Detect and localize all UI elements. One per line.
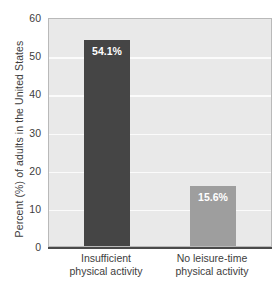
plot-area: 54.1%15.6%: [48, 18, 272, 247]
y-axis-tick-labels: 6050403020100: [0, 0, 46, 289]
bar-1: 15.6%: [190, 186, 236, 246]
y-tick-label-50: 50: [29, 51, 41, 61]
x-category-label-line: physical activity: [46, 265, 166, 278]
y-tick-label-10: 10: [29, 204, 41, 214]
x-category-label-1: No leisure-timephysical activity: [152, 252, 272, 277]
bar-chart: Percent (%) of adults in the United Stat…: [0, 0, 280, 289]
x-axis-category-labels: Insufficientphysical activityNo leisure-…: [48, 252, 272, 286]
x-axis-line: [48, 247, 272, 249]
x-category-label-line: Insufficient: [46, 252, 166, 265]
gridline-20: [49, 172, 271, 174]
gridline-30: [49, 134, 271, 136]
gridline-50: [49, 57, 271, 59]
y-tick-label-0: 0: [35, 242, 41, 252]
y-tick-label-40: 40: [29, 89, 41, 99]
bar-0: 54.1%: [84, 40, 130, 246]
x-category-label-0: Insufficientphysical activity: [46, 252, 166, 277]
gridline-40: [49, 95, 271, 97]
y-tick-label-20: 20: [29, 166, 41, 176]
x-category-label-line: physical activity: [152, 265, 272, 278]
x-category-label-line: No leisure-time: [152, 252, 272, 265]
bar-value-label-1: 15.6%: [190, 191, 236, 203]
y-tick-label-30: 30: [29, 128, 41, 138]
y-tick-label-60: 60: [29, 13, 41, 23]
bar-value-label-0: 54.1%: [84, 45, 130, 57]
gridline-10: [49, 210, 271, 212]
